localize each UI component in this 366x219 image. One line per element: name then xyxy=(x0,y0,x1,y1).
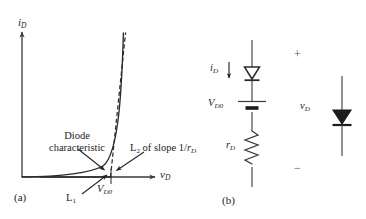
diode-characteristic-annotation: Diode characteristic xyxy=(38,131,116,153)
resistor-symbol xyxy=(245,131,258,164)
voltage-label: vD xyxy=(300,101,310,113)
line-L2-dashed xyxy=(111,33,126,178)
figure-container: iD vD Diode characteristic L2 of slope 1… xyxy=(0,0,366,219)
equivalent-diode-symbol xyxy=(333,76,352,156)
ideal-diode-symbol xyxy=(245,67,260,80)
battery-label: VD0 xyxy=(208,98,223,110)
minus-terminal-sign: − xyxy=(294,162,301,174)
line1-annotation: L1 xyxy=(66,193,76,205)
line2-slope-annotation: L2 of slope 1/rD xyxy=(130,143,196,155)
vd0-axis-annotation: VD0 xyxy=(97,184,112,196)
y-axis-label: iD xyxy=(18,17,26,30)
diode-characteristic-curve xyxy=(22,33,123,177)
current-label: iD xyxy=(210,63,218,75)
panel-a-caption: (a) xyxy=(14,192,26,203)
battery-symbol xyxy=(238,102,266,109)
panel-b-caption: (b) xyxy=(222,195,235,206)
plus-terminal-sign: + xyxy=(294,48,301,60)
x-axis-label: vD xyxy=(160,169,170,182)
resistor-label: rD xyxy=(226,140,235,152)
figure-vector-layer xyxy=(0,0,366,219)
